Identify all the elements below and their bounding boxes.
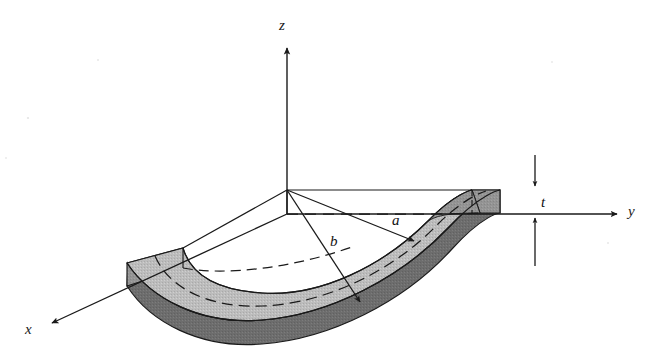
x-axis-label: x: [25, 322, 32, 337]
scan-speckles: [5, 59, 609, 244]
dimension-label-a: a: [392, 213, 400, 228]
curved-plate-diagram: [0, 0, 659, 359]
z-axis-label: z: [279, 18, 285, 33]
dimension-label-b: b: [330, 234, 338, 249]
y-axis-label: y: [628, 204, 635, 219]
plate-solid: [127, 190, 500, 345]
sector-edge-left: [183, 190, 287, 248]
dimension-label-t: t: [541, 195, 545, 210]
